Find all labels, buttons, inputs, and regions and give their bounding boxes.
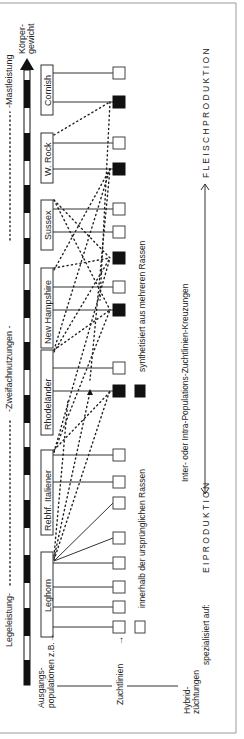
breed-cornish: Cornish — [41, 65, 53, 115]
scale-zweifach: -Zweifachnutzungen - — [4, 325, 14, 412]
legend-black-box — [135, 385, 145, 397]
row-label-ausgangs: Ausgangs- — [36, 667, 46, 708]
dotted-cross-connectors — [54, 102, 110, 560]
legend-white-box — [135, 621, 145, 633]
row-label-zuechtungen: züchtungen — [191, 670, 201, 714]
row-label-populationen: populationen z.B.→ — [46, 634, 56, 708]
row-label-zuchtlinien: Zuchtlinien — [115, 664, 125, 705]
breed-leghorn: Leghorn — [41, 552, 53, 637]
svg-text:Rebhf. Italiener: Rebhf. Italiener — [43, 470, 53, 531]
breed-rhodelaender: Rhodeländer — [41, 350, 53, 435]
line-boxes-white — [113, 67, 125, 633]
breed-new-hampshire: New Hampshire — [41, 268, 53, 348]
scale-legeleistung: Legeleistung- — [4, 593, 14, 647]
svg-text:Sussex: Sussex — [43, 210, 53, 240]
axis-label-gewicht: gewicht — [26, 23, 36, 54]
egg-production-label: E I P R O D U K T I O N — [201, 483, 211, 573]
scale-mastleistung: -Mastleistung — [4, 54, 14, 108]
svg-text:Leghorn: Leghorn — [43, 579, 53, 612]
meat-production-label: F L E I S C H P R O D U K T I O N — [201, 48, 211, 178]
svg-text:New Hampshire: New Hampshire — [43, 280, 53, 344]
svg-text:W. Rock: W. Rock — [43, 142, 53, 176]
breeding-diagram: Körper- gewicht Legeleistung- -Zweifachn… — [0, 0, 244, 739]
breed-sussex: Sussex — [41, 200, 53, 250]
arrow-up-icon — [20, 58, 34, 70]
svg-text:Cornish: Cornish — [43, 75, 53, 106]
specialized-label: spezialisiert auf: — [201, 604, 211, 665]
arrowhead-icon — [87, 389, 93, 395]
crossing-label: Inter- oder Intra-Populations-Zuchtlinie… — [180, 283, 190, 482]
breed-w-rock: W. Rock — [41, 133, 53, 183]
zuchtlinien-arrow: → — [115, 636, 125, 645]
weight-axis-bar — [20, 58, 34, 685]
legend-black-label: synthetisiert aus mehreren Rassen — [137, 240, 147, 372]
breed-rebhf-italiener: Rebhf. Italiener — [41, 450, 53, 535]
legend-white-label: innerhalb der ursprünglichen Rassen — [137, 469, 147, 608]
svg-text:Rhodeländer: Rhodeländer — [43, 378, 53, 430]
